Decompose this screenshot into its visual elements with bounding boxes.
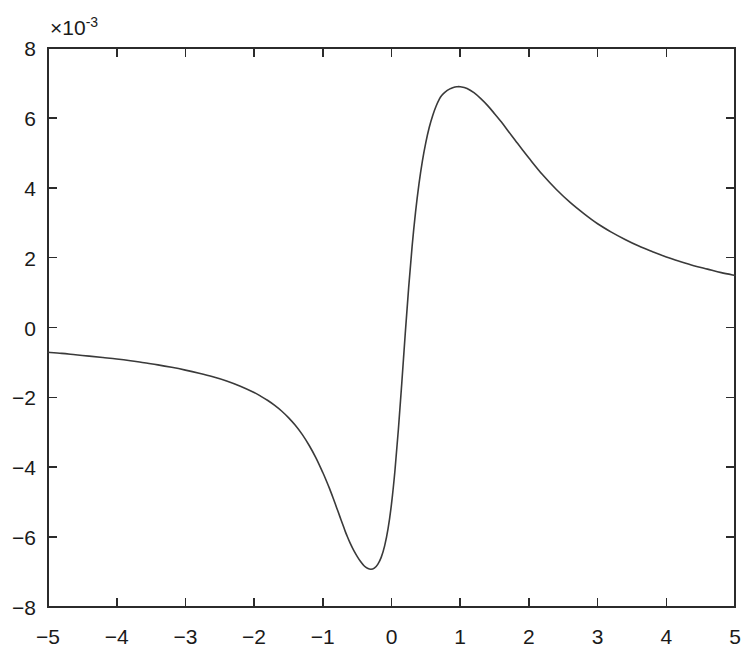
x-tick-label: −3	[173, 625, 197, 648]
plot-frame	[48, 48, 735, 607]
x-tick-label: 3	[592, 625, 604, 648]
x-tick-label: −1	[311, 625, 335, 648]
x-tick-label: 2	[523, 625, 535, 648]
y-tick-label: −6	[12, 526, 36, 549]
y-tick-label: −4	[12, 456, 36, 479]
svg-text:×10-3: ×10-3	[50, 14, 98, 39]
x-tick-label: 1	[454, 625, 466, 648]
y-multiplier-exponent: -3	[86, 14, 99, 30]
chart-canvas: ×10-3 −5−4−3−2−1012345 −8−6−4−202468	[0, 0, 755, 665]
y-axis-ticks: −8−6−4−202468	[12, 37, 735, 619]
y-tick-label: 4	[24, 177, 36, 200]
x-tick-label: 0	[386, 625, 398, 648]
x-tick-label: −5	[36, 625, 60, 648]
y-axis-multiplier-label: ×10-3	[50, 14, 98, 39]
x-tick-label: 4	[660, 625, 672, 648]
data-series-group	[48, 87, 735, 570]
figure-container: ×10-3 −5−4−3−2−1012345 −8−6−4−202468	[0, 0, 755, 665]
x-tick-label: −2	[242, 625, 266, 648]
y-tick-label: −8	[12, 596, 36, 619]
x-tick-label: 5	[729, 625, 741, 648]
y-tick-label: −2	[12, 386, 36, 409]
y-tick-label: 6	[24, 107, 36, 130]
y-multiplier-base: ×10	[50, 16, 86, 39]
y-tick-label: 8	[24, 37, 36, 60]
x-tick-label: −4	[105, 625, 129, 648]
x-axis-ticks: −5−4−3−2−1012345	[36, 48, 741, 648]
line-series-curve	[48, 87, 735, 570]
y-tick-label: 2	[24, 247, 36, 270]
y-tick-label: 0	[24, 317, 36, 340]
